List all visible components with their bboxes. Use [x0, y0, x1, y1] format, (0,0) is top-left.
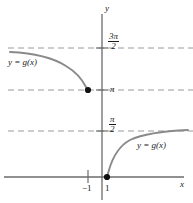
y-tick-label-pi-over-2: π 2 [109, 115, 116, 134]
fraction-denominator: 2 [108, 41, 119, 51]
curve-right-branch [107, 130, 188, 177]
y-axis-label: y [105, 4, 109, 13]
left-curve-label: y = g(x) [8, 58, 37, 67]
fraction-numerator: π [109, 115, 116, 124]
function-graph-svg [0, 0, 193, 203]
x-tick-label-1: 1 [105, 184, 110, 193]
y-tick-label-3pi-over-2: 3π 2 [108, 32, 119, 51]
x-tick-label-minus-1: −1 [82, 184, 92, 193]
x-axis-label: x [180, 180, 184, 189]
point-right-endpoint [104, 174, 110, 180]
y-tick-label-pi: π [110, 85, 115, 94]
point-left-endpoint [85, 87, 91, 93]
fraction-numerator: 3π [108, 32, 119, 41]
fraction-denominator: 2 [109, 124, 116, 134]
right-curve-label: y = g(x) [137, 141, 166, 150]
graph-figure: y x 3π 2 π π 2 −1 1 y = g(x) y = g(x) [0, 0, 193, 203]
